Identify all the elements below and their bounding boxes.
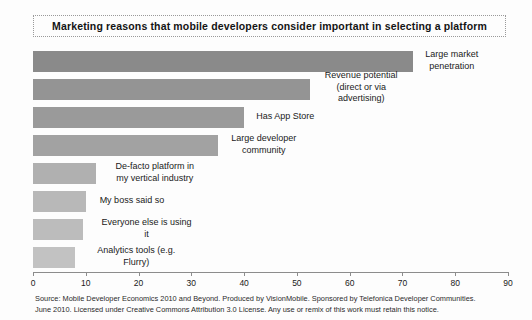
plot-area: Large marketpenetrationRevenue potential… bbox=[0, 48, 532, 272]
bar-row: My boss said so bbox=[0, 188, 532, 216]
footer-line-2: June 2010. Licensed under Creative Commo… bbox=[35, 305, 505, 316]
bar-label: Revenue potential(direct or viaadvertisi… bbox=[315, 70, 407, 105]
x-axis-tick-label: 70 bbox=[389, 278, 415, 288]
bar-label-line: Everyone else is using bbox=[88, 217, 205, 229]
x-axis-line bbox=[33, 272, 508, 273]
chart-footer: Source: Mobile Developer Economics 2010 … bbox=[35, 294, 505, 315]
x-axis-tick-label: 60 bbox=[337, 278, 363, 288]
x-axis-tick-label: 50 bbox=[284, 278, 310, 288]
bar-label: Large developercommunity bbox=[223, 133, 305, 156]
chart-container: Marketing reasons that mobile developers… bbox=[0, 0, 532, 320]
bar-row: Has App Store bbox=[0, 104, 532, 132]
bar-label-line: my vertical industry bbox=[101, 173, 208, 185]
bar-label-line: Revenue potential bbox=[315, 70, 407, 82]
bar-label: De-facto platform inmy vertical industry bbox=[101, 161, 208, 184]
x-axis-tick-label: 10 bbox=[73, 278, 99, 288]
bar bbox=[33, 219, 83, 240]
bar bbox=[33, 107, 244, 128]
bar-label-line: Large market bbox=[418, 49, 485, 61]
bar-label-line: advertising) bbox=[315, 93, 407, 105]
bar-row: Revenue potential(direct or viaadvertisi… bbox=[0, 76, 532, 104]
x-axis-tick-label: 30 bbox=[178, 278, 204, 288]
footer-line-1: Source: Mobile Developer Economics 2010 … bbox=[35, 294, 505, 305]
bar-label: Everyone else is usingit bbox=[88, 217, 205, 240]
x-axis-tick-mark bbox=[297, 272, 298, 276]
bar-label-line: Flurry) bbox=[80, 257, 192, 269]
x-axis-tick-mark bbox=[508, 272, 509, 276]
x-axis-tick-label: 40 bbox=[231, 278, 257, 288]
x-axis-tick-mark bbox=[455, 272, 456, 276]
x-axis-tick-mark bbox=[350, 272, 351, 276]
x-axis-tick-mark bbox=[86, 272, 87, 276]
x-axis-tick-label: 20 bbox=[126, 278, 152, 288]
bar-label-line: it bbox=[88, 229, 205, 241]
bar-label: Has App Store bbox=[249, 111, 321, 123]
x-axis-tick-mark bbox=[244, 272, 245, 276]
bar bbox=[33, 51, 413, 72]
bar bbox=[33, 79, 310, 100]
bar-label-line: My boss said so bbox=[91, 195, 173, 207]
bar-row: Analytics tools (e.g.Flurry) bbox=[0, 244, 532, 272]
chart-title-box: Marketing reasons that mobile developers… bbox=[33, 15, 506, 37]
x-axis-tick-mark bbox=[33, 272, 34, 276]
bar-label-line: community bbox=[223, 145, 305, 157]
bar-row: De-facto platform inmy vertical industry bbox=[0, 160, 532, 188]
bar-label-line: (direct or via bbox=[315, 82, 407, 94]
bar-label-line: Analytics tools (e.g. bbox=[80, 245, 192, 257]
bar-row: Large marketpenetration bbox=[0, 48, 532, 76]
bar bbox=[33, 163, 96, 184]
bar-label-line: penetration bbox=[418, 61, 485, 73]
x-axis-tick-label: 80 bbox=[442, 278, 468, 288]
bar bbox=[33, 247, 75, 268]
bar-label-line: Has App Store bbox=[249, 111, 321, 123]
bar-row: Everyone else is usingit bbox=[0, 216, 532, 244]
bar-label-line: Large developer bbox=[223, 133, 305, 145]
x-axis-tick-mark bbox=[402, 272, 403, 276]
x-axis-tick-mark bbox=[139, 272, 140, 276]
bar bbox=[33, 135, 218, 156]
chart-title: Marketing reasons that mobile developers… bbox=[52, 20, 487, 32]
bar-label: My boss said so bbox=[91, 195, 173, 207]
bar bbox=[33, 191, 86, 212]
bar-label: Large marketpenetration bbox=[418, 49, 485, 72]
x-axis-tick-label: 0 bbox=[20, 278, 46, 288]
bar-row: Large developercommunity bbox=[0, 132, 532, 160]
bar-label: Analytics tools (e.g.Flurry) bbox=[80, 245, 192, 268]
x-axis-tick-label: 90 bbox=[495, 278, 521, 288]
x-axis-tick-mark bbox=[191, 272, 192, 276]
bar-label-line: De-facto platform in bbox=[101, 161, 208, 173]
